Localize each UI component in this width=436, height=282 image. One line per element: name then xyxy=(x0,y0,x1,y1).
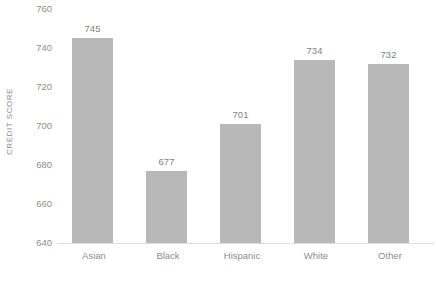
y-axis-title: CREDIT SCORE xyxy=(0,0,18,243)
x-tick-label: Black xyxy=(131,250,205,261)
y-tick-label: 760 xyxy=(22,4,52,14)
bar[interactable] xyxy=(368,64,409,243)
x-tick-label: Asian xyxy=(57,250,131,261)
plot-area: 745 677 701 734 732 xyxy=(57,9,432,243)
y-tick-label: 720 xyxy=(22,82,52,92)
x-tick-label: Other xyxy=(353,250,427,261)
x-tick-label: White xyxy=(279,250,353,261)
bar[interactable] xyxy=(146,171,187,243)
bar[interactable] xyxy=(220,124,261,243)
x-axis-line xyxy=(57,243,434,244)
bar[interactable] xyxy=(72,38,113,243)
y-tick-label: 700 xyxy=(22,121,52,131)
y-axis-title-label: CREDIT SCORE xyxy=(5,88,14,155)
bar-value-label: 701 xyxy=(213,109,268,120)
y-tick-label: 680 xyxy=(22,160,52,170)
bar-value-label: 745 xyxy=(65,23,120,34)
bar[interactable] xyxy=(294,60,335,243)
bar-value-label: 732 xyxy=(361,49,416,60)
y-tick-label: 740 xyxy=(22,43,52,53)
bar-value-label: 734 xyxy=(287,45,342,56)
bar-value-label: 677 xyxy=(139,156,194,167)
y-tick-label: 660 xyxy=(22,199,52,209)
x-tick-label: Hispanic xyxy=(205,250,279,261)
y-tick-label: 640 xyxy=(22,238,52,248)
bar-chart: CREDIT SCORE 760 740 720 700 680 660 640… xyxy=(0,0,436,282)
